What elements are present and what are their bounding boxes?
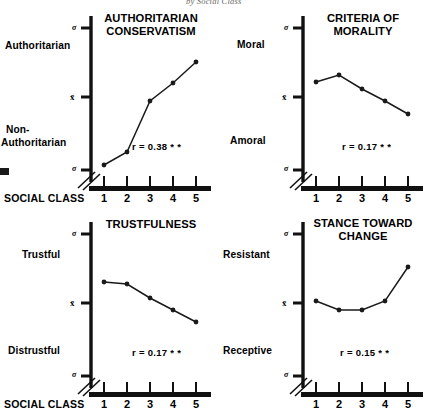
- correlation-annotation: r = 0.15 * *: [340, 347, 389, 358]
- plot-area: [212, 0, 424, 206]
- data-point: [406, 265, 411, 270]
- x-tick-label-3: 3: [356, 398, 368, 410]
- x-tick-label-3: 3: [144, 192, 156, 204]
- data-point: [337, 73, 342, 78]
- correlation-annotation: r = 0.17 * *: [132, 347, 181, 358]
- x-tick-label-5: 5: [190, 398, 202, 410]
- data-point: [314, 80, 319, 85]
- x-axis-line: [301, 186, 423, 191]
- data-point: [383, 99, 388, 104]
- data-point: [148, 99, 153, 104]
- data-point: [314, 299, 319, 304]
- x-tick-label-5: 5: [190, 192, 202, 204]
- x-tick-label-4: 4: [379, 398, 391, 410]
- x-tick-label-1: 1: [310, 192, 322, 204]
- x-axis-title: SOCIAL CLASS: [4, 398, 84, 410]
- x-tick-label-5: 5: [402, 192, 414, 204]
- chart-panel-criteria-of-morality: CRITERIA OF MORALITY Moral Amoral σ x̄ σ: [212, 0, 424, 206]
- x-axis-line: [89, 392, 211, 397]
- data-point: [102, 163, 107, 168]
- x-tick-label-1: 1: [310, 398, 322, 410]
- x-axis-line: [301, 392, 423, 397]
- correlation-annotation: r = 0.38 * *: [132, 141, 181, 152]
- data-line: [316, 267, 408, 310]
- x-tick-label-3: 3: [356, 192, 368, 204]
- data-point: [194, 60, 199, 65]
- data-point: [171, 308, 176, 313]
- data-point: [337, 308, 342, 313]
- x-tick-label-4: 4: [379, 192, 391, 204]
- x-tick-label-2: 2: [121, 398, 133, 410]
- x-tick-label-1: 1: [98, 398, 110, 410]
- chart-panel-authoritarian-conservatism: AUTHORITARIAN CONSERVATISM Authoritarian…: [0, 0, 212, 206]
- data-point: [171, 81, 176, 86]
- figure-root: by Social Class AUTHORITARIAN CONSERVATI…: [0, 0, 424, 413]
- x-tick-label-3: 3: [144, 398, 156, 410]
- data-point: [102, 280, 107, 285]
- data-point: [125, 282, 130, 287]
- data-line: [316, 75, 408, 114]
- x-tick-label-2: 2: [121, 192, 133, 204]
- x-tick-label-2: 2: [333, 192, 345, 204]
- chart-panel-trustfulness: TRUSTFULNESS Trustful Distrustful σ x̄ σ: [0, 205, 212, 411]
- data-point: [125, 150, 130, 155]
- x-axis-line: [89, 186, 211, 191]
- x-tick-label-4: 4: [167, 192, 179, 204]
- plot-area: [0, 205, 212, 413]
- x-tick-label-5: 5: [402, 398, 414, 410]
- x-tick-label-4: 4: [167, 398, 179, 410]
- data-point: [148, 296, 153, 301]
- x-axis-title: SOCIAL CLASS: [4, 192, 84, 204]
- data-point: [383, 299, 388, 304]
- chart-panel-stance-toward-change: STANCE TOWARD CHANGE Resistant Receptive…: [212, 205, 424, 411]
- data-point: [406, 112, 411, 117]
- correlation-annotation: r = 0.17 * *: [342, 141, 391, 152]
- plot-area: [0, 0, 212, 206]
- x-tick-label-1: 1: [98, 192, 110, 204]
- x-tick-label-2: 2: [333, 398, 345, 410]
- plot-area: [212, 205, 424, 413]
- data-point: [194, 320, 199, 325]
- data-point: [360, 308, 365, 313]
- data-point: [360, 87, 365, 92]
- data-line: [104, 282, 196, 322]
